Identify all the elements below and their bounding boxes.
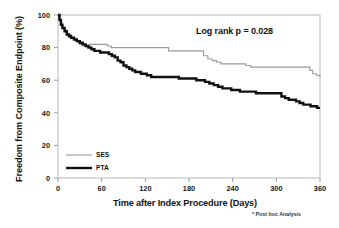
x-tick-label: 120: [134, 184, 156, 193]
y-tick-label: 0: [28, 174, 50, 183]
legend-label-ses: SES: [96, 151, 109, 158]
x-tick-label: 240: [222, 184, 244, 193]
x-axis-ticks: [58, 178, 320, 182]
y-tick-label: 20: [28, 141, 50, 150]
x-tick-label: 360: [309, 184, 331, 193]
x-tick-label: 180: [178, 184, 200, 193]
y-tick-label: 100: [28, 11, 50, 20]
kaplan-meier-chart-figure: Freedom from Composite Endpoint (%) Time…: [0, 0, 339, 228]
y-tick-label: 80: [28, 43, 50, 52]
x-axis-title: Time after Index Procedure (Days): [45, 198, 325, 208]
legend-label-pta: PTA: [96, 164, 109, 171]
y-tick-label: 40: [28, 109, 50, 118]
footnote-post-hoc: * Post hoc Analysis: [252, 211, 301, 217]
plot-area-svg: [0, 0, 339, 228]
x-tick-label: 0: [47, 184, 69, 193]
y-axis-ticks: [54, 15, 58, 178]
x-tick-label: 300: [265, 184, 287, 193]
y-tick-label: 60: [28, 76, 50, 85]
y-axis-title: Freedom from Composite Endpoint (%): [14, 11, 24, 187]
log-rank-annotation: Log rank p = 0.028: [196, 26, 273, 36]
x-tick-label: 60: [91, 184, 113, 193]
